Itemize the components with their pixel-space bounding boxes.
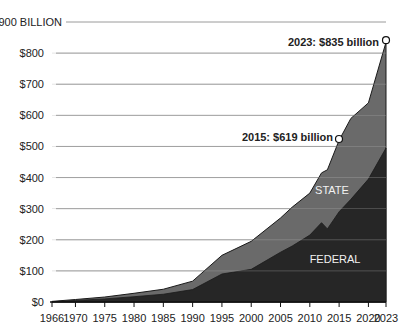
y-tick-label: $600 [20, 109, 44, 121]
state-label: STATE [315, 184, 349, 196]
x-axis: 1966197019751980198519901995200020052010… [40, 302, 398, 324]
x-tick-label: 1995 [210, 312, 234, 324]
federal-label: FEDERAL [310, 253, 361, 265]
x-tick-label: 1975 [92, 312, 116, 324]
y-tick-label: $0 [32, 296, 44, 308]
y-tick-label: $700 [20, 78, 44, 90]
marker-2015 [336, 136, 343, 143]
y-tick-label: $100 [20, 265, 44, 277]
x-tick-label: 2005 [268, 312, 292, 324]
y-tick-label: $900 BILLION [0, 16, 62, 28]
x-tick-label: 2015 [327, 312, 351, 324]
y-axis-labels: $900 BILLION$800$700$600$500$400$300$200… [0, 16, 62, 308]
x-tick-label: 2000 [239, 312, 263, 324]
y-tick-label: $200 [20, 234, 44, 246]
x-tick-label: 2010 [298, 312, 322, 324]
x-tick-label: 2023 [374, 312, 398, 324]
y-tick-label: $400 [20, 172, 44, 184]
x-tick-label: 1970 [63, 312, 87, 324]
y-tick-label: $500 [20, 140, 44, 152]
stacked-area-chart: $900 BILLION$800$700$600$500$400$300$200… [0, 0, 408, 336]
x-tick-label: 1990 [180, 312, 204, 324]
x-tick-label: 1980 [122, 312, 146, 324]
y-tick-label: $300 [20, 203, 44, 215]
x-tick-label: 1985 [151, 312, 175, 324]
annotation-2015: 2015: $619 billion [242, 131, 333, 143]
marker-2023 [383, 37, 390, 44]
x-tick-label: 1966 [40, 312, 64, 324]
annotation-2023: 2023: $835 billion [288, 36, 379, 48]
y-tick-label: $800 [20, 47, 44, 59]
